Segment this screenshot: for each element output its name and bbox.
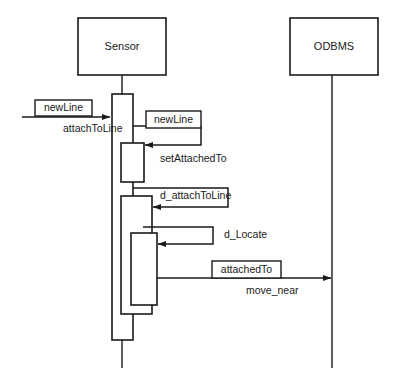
msg-move-near: attachedTomove_near xyxy=(157,261,331,296)
act-setattachedto xyxy=(121,143,144,182)
msg-move-near-boxed-label: attachedTo xyxy=(221,263,273,275)
participant-label-sensor: Sensor xyxy=(105,40,140,52)
messages-layer: newLineattachToLinenewLinesetAttachedTod… xyxy=(22,100,331,296)
participant-label-odbms: ODBMS xyxy=(314,40,354,52)
msg-set-attached-to: newLinesetAttachedTo xyxy=(133,111,227,164)
msg-d-locate-label: d_Locate xyxy=(224,228,267,240)
msg-attach-to-line-boxed-label: newLine xyxy=(44,101,83,113)
msg-d-attach-to-line-label: d_attachToLine xyxy=(160,189,231,201)
act-d-locate xyxy=(131,233,157,305)
uml-sequence-diagram: SensorODBMS newLineattachToLinenewLinese… xyxy=(0,0,394,375)
msg-attach-to-line: newLineattachToLine xyxy=(22,100,123,134)
msg-set-attached-to-boxed-label: newLine xyxy=(154,113,193,125)
msg-attach-to-line-label: attachToLine xyxy=(63,122,123,134)
participant-odbms: ODBMS xyxy=(290,18,378,368)
diagram-canvas: SensorODBMS newLineattachToLinenewLinese… xyxy=(0,0,394,375)
msg-set-attached-to-label: setAttachedTo xyxy=(160,152,227,164)
msg-set-attached-to-loop xyxy=(133,126,201,145)
msg-move-near-label: move_near xyxy=(246,284,299,296)
msg-d-locate: d_Locate xyxy=(143,227,267,244)
